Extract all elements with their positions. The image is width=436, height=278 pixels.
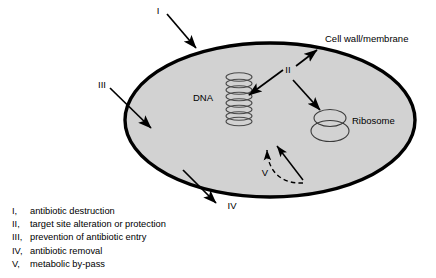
legend-item-number: V,	[12, 258, 30, 271]
legend: I, antibiotic destruction II, target sit…	[12, 205, 252, 271]
legend-item-number: IV,	[12, 245, 30, 258]
marker-ii: II	[285, 64, 290, 75]
legend-item: II, target site alteration or protection	[12, 218, 252, 231]
marker-v: V	[262, 167, 269, 178]
legend-item: IV, antibiotic removal	[12, 245, 252, 258]
cell-wall-label: Cell wall/membrane	[325, 33, 408, 44]
legend-item-label: target site alteration or protection	[30, 218, 252, 231]
marker-i: I	[157, 5, 160, 16]
legend-item: V, metabolic by-pass	[12, 258, 252, 271]
arrow-i-antibiotic-destruction	[167, 14, 196, 48]
legend-item: III, prevention of antibiotic entry	[12, 231, 252, 244]
dna-label: DNA	[193, 92, 214, 103]
legend-item-number: III,	[12, 231, 30, 244]
ribosome-label: Ribosome	[352, 115, 395, 126]
legend-item-number: I,	[12, 205, 30, 218]
figure-root: Cell wall/membrane DNA Ribosome I II III…	[0, 0, 436, 278]
marker-iii: III	[98, 79, 106, 90]
legend-item-label: prevention of antibiotic entry	[30, 231, 252, 244]
legend-item: I, antibiotic destruction	[12, 205, 252, 218]
legend-item-label: antibiotic destruction	[30, 205, 252, 218]
legend-item-number: II,	[12, 218, 30, 231]
legend-item-label: antibiotic removal	[30, 245, 252, 258]
legend-item-label: metabolic by-pass	[30, 258, 252, 271]
